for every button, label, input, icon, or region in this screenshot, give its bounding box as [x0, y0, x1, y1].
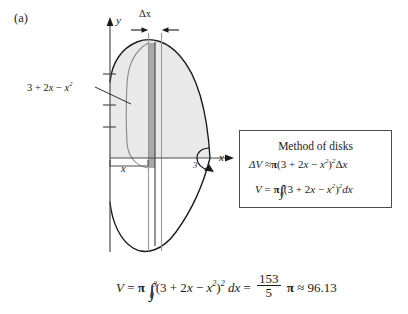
result-minus: −	[193, 280, 207, 295]
figure-panel-a: (a) y x 3 Δx x 3 + 2x − x2 Method of dis…	[0, 0, 408, 314]
integral-lower-limit: 0	[150, 293, 154, 299]
slice-width-label: x	[121, 164, 126, 175]
method-of-disks-title: Method of disks	[240, 140, 391, 152]
result-equation: V = π ∫30(3 + 2x − x2)2 dx = 1535 π ≈ 96…	[116, 272, 337, 299]
result-approx: ≈	[297, 280, 304, 295]
integral-lower-limit: 0	[280, 192, 283, 197]
result-fraction: 1535	[257, 272, 281, 299]
eq1-minus: −	[308, 158, 320, 170]
shaded-region	[110, 40, 210, 158]
eq2-minus: −	[315, 183, 327, 195]
eq2-open: (3 + 2	[284, 183, 310, 195]
eq2-lhs: V	[255, 183, 262, 195]
eq1-lhs: ΔV	[249, 158, 262, 170]
delta-x-label: Δx	[139, 9, 151, 20]
integral-upper-limit: 3	[282, 185, 285, 190]
callout-part-minus: −	[53, 82, 64, 93]
eq1-tail-var: x	[342, 158, 347, 170]
y-axis-label: y	[116, 15, 121, 26]
fraction-denominator: 5	[257, 285, 281, 299]
result-value: 96.13	[308, 280, 337, 295]
eq2-differential: dx	[342, 183, 352, 195]
result-open: (3 + 2	[156, 280, 187, 295]
result-lhs: V	[116, 280, 124, 295]
eq1-open: (3 + 2	[277, 158, 303, 170]
rotation-arrowhead	[204, 164, 214, 172]
result-pi-1: π	[138, 280, 145, 295]
x-upper-bound-label: 3	[193, 161, 197, 170]
panel-label: (a)	[14, 12, 28, 25]
integral-symbol: ∫30	[149, 283, 155, 297]
disk-volume-increment-equation: ΔV ≈π(3 + 2x − x2)2Δx	[249, 158, 347, 170]
integral-upper-limit: 3	[153, 282, 157, 288]
callout-part-exponent: 2	[69, 80, 72, 87]
x-axis-arrowhead	[225, 155, 234, 162]
delta-x-arrowhead-left	[142, 27, 149, 33]
curve-equation-callout: 3 + 2x − x2	[27, 81, 72, 93]
result-equals-2: =	[243, 280, 250, 295]
fraction-numerator: 153	[257, 272, 281, 285]
width-bracket	[110, 160, 148, 166]
result-equals-1: =	[127, 280, 134, 295]
callout-part-constant: 3 + 2	[27, 82, 49, 93]
result-pi-2: π	[287, 280, 294, 295]
integral-symbol: ∫30	[279, 185, 283, 196]
result-differential: dx	[228, 280, 240, 295]
disk-slice-strip	[149, 43, 156, 168]
disk-volume-integral-equation: V = π∫30(3 + 2x − x2)2dx	[255, 183, 353, 196]
delta-x-arrowhead-right	[162, 27, 169, 33]
y-axis-arrowhead	[107, 17, 114, 26]
eq2-relation: =	[264, 183, 270, 195]
result-outer-exponent: 2	[221, 279, 225, 288]
x-axis-label: x	[219, 152, 224, 163]
